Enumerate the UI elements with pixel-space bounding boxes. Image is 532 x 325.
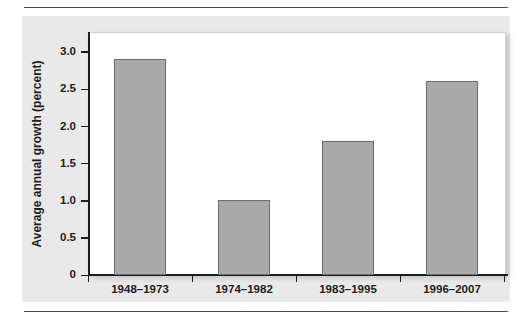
bottom-rule (24, 311, 508, 312)
x-tick-1 (192, 275, 193, 282)
figure-bar-chart: 0 0.5 1.0 1.5 2.0 2.5 3.0 1948–1973 1974… (0, 0, 532, 325)
y-tick-5 (81, 89, 88, 90)
x-tick-2 (296, 275, 297, 282)
category-label-3: 1996–2007 (400, 284, 504, 296)
x-tick-0 (88, 275, 89, 282)
top-rule (24, 7, 508, 8)
bar-1974-1982 (218, 200, 270, 274)
category-label-2: 1983–1995 (296, 284, 400, 296)
bar-1948-1973 (114, 59, 166, 275)
y-tick-2 (81, 200, 88, 201)
y-tick-0 (81, 275, 88, 276)
bar-1983-1995 (322, 141, 374, 275)
y-tick-3 (81, 163, 88, 164)
category-label-0: 1948–1973 (88, 284, 192, 296)
category-label-1: 1974–1982 (192, 284, 296, 296)
y-tick-1 (81, 237, 88, 238)
bar-1996-2007 (426, 81, 478, 274)
y-axis-line (88, 32, 90, 275)
y-tick-6 (81, 51, 88, 52)
y-axis-title: Average annual growth (percent) (30, 29, 44, 279)
x-tick-4 (504, 275, 505, 282)
x-tick-3 (400, 275, 401, 282)
y-tick-4 (81, 126, 88, 127)
